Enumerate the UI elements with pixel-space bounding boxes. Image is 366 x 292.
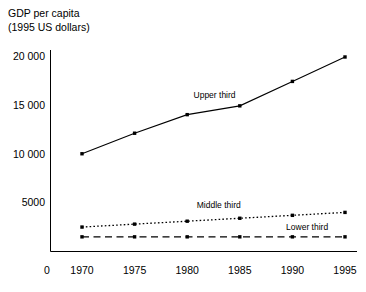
x-tick-label-1975: 1975: [123, 264, 147, 276]
data-point-marker: [80, 225, 83, 228]
series-annotation-upper-third: Upper third: [194, 90, 236, 100]
series-annotation-lower-third: Lower third: [286, 222, 328, 232]
data-point-marker: [343, 211, 346, 214]
series-upper-third: [80, 55, 346, 155]
series-line-0: [82, 57, 345, 154]
data-point-marker: [186, 113, 189, 116]
data-point-marker: [133, 132, 136, 135]
series-lower-third: [80, 235, 346, 238]
data-point-marker: [186, 220, 189, 223]
y-tick-label-5000: 5000: [22, 196, 46, 208]
data-point-marker: [343, 55, 346, 58]
y-tick-label-10000: 10 000: [13, 148, 45, 160]
x-tick-label-1995: 1995: [333, 264, 357, 276]
series-annotation-middle-third: Middle third: [197, 200, 241, 210]
data-point-marker: [291, 80, 294, 83]
data-point-marker: [343, 235, 346, 238]
series-layer: [80, 55, 346, 238]
origin-tick-label-0: 0: [44, 264, 50, 276]
x-tick-label-1985: 1985: [228, 264, 252, 276]
x-tick-label-1980: 1980: [176, 264, 200, 276]
data-point-marker: [133, 222, 136, 225]
series-annotation-layer: Upper thirdMiddle thirdLower third: [194, 90, 329, 231]
data-point-marker: [238, 217, 241, 220]
x-tick-label-1970: 1970: [70, 264, 94, 276]
data-point-marker: [186, 235, 189, 238]
data-point-marker: [133, 235, 136, 238]
x-tick-label-1990: 1990: [281, 264, 305, 276]
data-point-marker: [238, 104, 241, 107]
data-point-marker: [80, 235, 83, 238]
y-tick-label-20000: 20 000: [13, 50, 45, 62]
data-point-marker: [238, 235, 241, 238]
data-point-marker: [291, 235, 294, 238]
chart-plot-area: 20 000 15 000 10 000 5000 0 1970 1975 19…: [0, 0, 366, 292]
data-point-marker: [291, 214, 294, 217]
data-point-marker: [80, 152, 83, 155]
chart-container: GDP per capita(1995 US dollars) 20 000 1…: [0, 0, 366, 292]
y-tick-label-15000: 15 000: [13, 99, 45, 111]
